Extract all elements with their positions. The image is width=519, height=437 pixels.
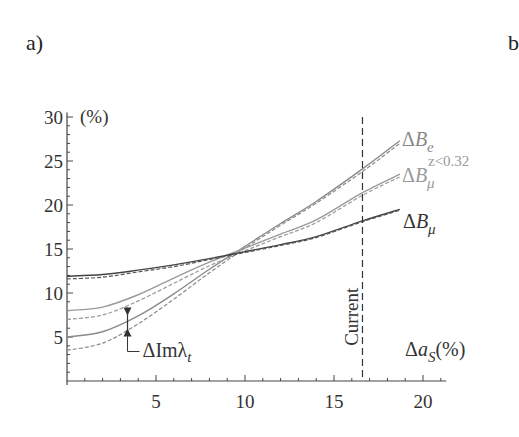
x-tick-label: 15 xyxy=(325,391,344,412)
series-line xyxy=(67,209,400,276)
y-tick-label: 20 xyxy=(44,195,63,216)
series-labels: ΔBeΔBμz<0.32ΔBμ xyxy=(402,128,469,237)
y-tick-label: 5 xyxy=(54,327,64,348)
arrow-down-icon xyxy=(124,308,132,316)
delta-im-lambda-label: ΔImλt xyxy=(143,339,193,365)
x-tick-label: 20 xyxy=(414,391,433,412)
current-label: Current xyxy=(341,287,362,346)
y-tick-label: 15 xyxy=(44,239,63,260)
axes: 510152051015202530(%)ΔaS(%) xyxy=(44,106,465,412)
y-tick-label: 10 xyxy=(44,283,63,304)
y-tick-label: 25 xyxy=(44,151,63,172)
leader-line xyxy=(128,336,140,351)
y-tick-label: 30 xyxy=(44,107,63,128)
x-tick-label: 5 xyxy=(151,391,161,412)
x-axis-label: ΔaS(%) xyxy=(405,338,465,365)
x-tick-label: 10 xyxy=(236,391,255,412)
series-label: ΔBe xyxy=(402,128,434,155)
series-label-superscript: z<0.32 xyxy=(428,153,469,169)
y-axis-label: (%) xyxy=(80,106,108,128)
series-label: ΔBμ xyxy=(403,210,436,237)
series-line xyxy=(67,210,400,279)
